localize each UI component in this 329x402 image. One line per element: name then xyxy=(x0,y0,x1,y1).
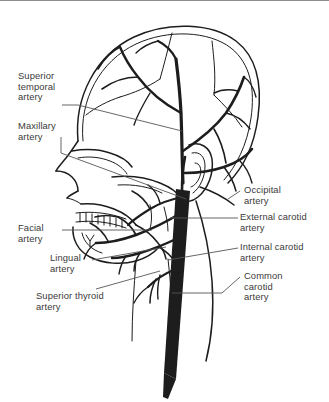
leader-lingual xyxy=(92,247,166,260)
label-maxillary-artery: Maxillary artery xyxy=(18,121,56,142)
leader-superior-thyroid xyxy=(96,271,160,289)
leader-lines xyxy=(61,105,240,293)
label-superior-thyroid-artery: Superior thyroid artery xyxy=(36,291,104,312)
superficial-arteries xyxy=(98,41,256,205)
label-facial-artery: Facial artery xyxy=(18,223,44,244)
label-superior-temporal-artery: Superior temporal artery xyxy=(18,71,55,103)
label-occipital-artery: Occipital artery xyxy=(244,185,281,206)
anatomy-figure: .ol{fill:none;stroke:#1d1d1d;stroke-line… xyxy=(0,0,329,402)
leader-maxillary xyxy=(61,137,186,199)
label-internal-carotid-artery: Internal carotid artery xyxy=(240,242,304,263)
label-external-carotid-artery: External carotid artery xyxy=(240,212,307,233)
leader-occipital xyxy=(228,191,240,199)
facial-arteries xyxy=(84,185,183,303)
leader-common-carotid xyxy=(222,277,240,293)
teeth-row xyxy=(76,212,126,228)
label-lingual-artery: Lingual artery xyxy=(50,253,81,274)
label-common-carotid-artery: Common carotid artery xyxy=(244,271,283,303)
common-carotid-trunk xyxy=(163,157,190,399)
